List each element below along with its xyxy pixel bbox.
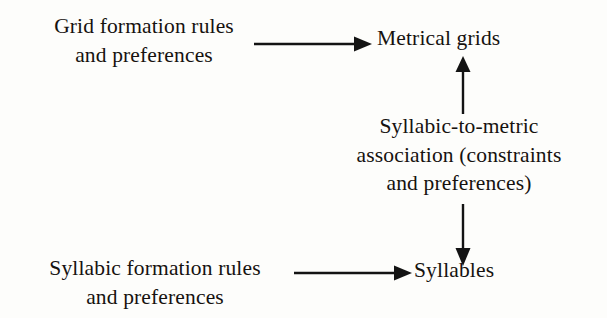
- node-association-line-1: Syllabic-to-metric: [333, 112, 585, 141]
- node-syllabic-formation-rules: Syllabic formation rules and preferences: [24, 254, 286, 311]
- node-grid-formation-rules: Grid formation rules and preferences: [33, 12, 255, 69]
- node-association-line-2: association (constraints: [333, 141, 585, 170]
- node-syllabic-formation-rules-line-1: Syllabic formation rules: [24, 254, 286, 283]
- node-metrical-grids-line-1: Metrical grids: [377, 24, 500, 53]
- node-grid-formation-rules-line-1: Grid formation rules: [33, 12, 255, 41]
- node-association-line-3: and preferences): [333, 169, 585, 198]
- arrow-grid-rules-to-metrical-grids: [252, 32, 372, 56]
- node-syllables: Syllables: [414, 256, 494, 285]
- node-syllables-line-1: Syllables: [414, 256, 494, 285]
- node-syllabic-to-metric-association: Syllabic-to-metric association (constrai…: [333, 112, 585, 198]
- node-metrical-grids: Metrical grids: [377, 24, 500, 53]
- node-syllabic-formation-rules-line-2: and preferences: [24, 283, 286, 312]
- arrow-syllabic-rules-to-syllables: [292, 261, 412, 285]
- node-grid-formation-rules-line-2: and preferences: [33, 41, 255, 70]
- diagram-canvas: Grid formation rules and preferences Met…: [0, 0, 607, 318]
- arrow-association-to-metrical-grids: [450, 56, 476, 114]
